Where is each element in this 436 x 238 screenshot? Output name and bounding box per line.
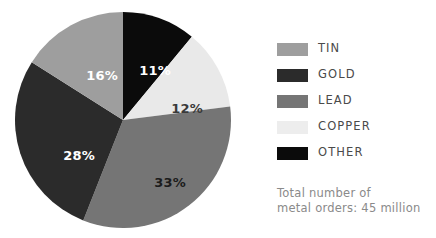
legend-label-gold: GOLD [318, 69, 356, 81]
chart-legend: TINGOLDLEADCOPPEROTHER [277, 36, 432, 166]
legend-label-tin: TIN [318, 43, 340, 55]
legend-swatch-lead [277, 95, 308, 108]
footnote-line-1: Total number of [277, 186, 435, 201]
chart-footnote: Total number of metal orders: 45 million [277, 186, 435, 216]
legend-swatch-other [277, 147, 308, 160]
pie-chart-figure: 11%12%33%28%16% TINGOLDLEADCOPPEROTHER T… [0, 0, 436, 238]
pie-chart-svg: 11%12%33%28%16% [14, 11, 232, 229]
pie-slice-value-gold: 28% [63, 148, 95, 163]
legend-item-other[interactable]: OTHER [277, 140, 432, 166]
pie-slice-value-other: 11% [139, 63, 171, 78]
legend-swatch-gold [277, 69, 308, 82]
footnote-line-2: metal orders: 45 million [277, 201, 435, 216]
legend-label-lead: LEAD [318, 95, 353, 107]
pie-chart: 11%12%33%28%16% [14, 11, 232, 229]
pie-slice-value-tin: 16% [86, 68, 118, 83]
legend-item-tin[interactable]: TIN [277, 36, 432, 62]
legend-item-lead[interactable]: LEAD [277, 88, 432, 114]
pie-slice-value-copper: 12% [171, 101, 203, 116]
legend-swatch-copper [277, 121, 308, 134]
legend-item-copper[interactable]: COPPER [277, 114, 432, 140]
legend-swatch-tin [277, 43, 308, 56]
legend-label-copper: COPPER [318, 121, 371, 133]
pie-slice-group [15, 12, 231, 228]
legend-label-other: OTHER [318, 147, 363, 159]
legend-item-gold[interactable]: GOLD [277, 62, 432, 88]
pie-slice-value-lead: 33% [154, 175, 186, 190]
